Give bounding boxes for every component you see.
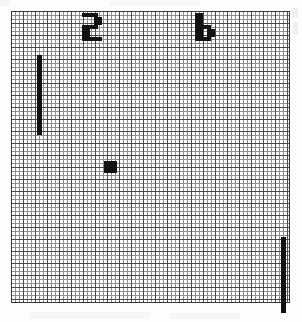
- score-left: [82, 13, 102, 41]
- scan-artifact: [292, 8, 298, 17]
- scan-artifact: [110, 1, 200, 6]
- left-paddle[interactable]: [37, 55, 42, 135]
- right-paddle[interactable]: [281, 237, 286, 313]
- scan-artifact: [30, 312, 150, 319]
- game-playfield[interactable]: [11, 11, 290, 303]
- scan-artifact: [0, 0, 10, 6]
- score-right: [195, 13, 215, 41]
- pong-screen: [0, 0, 302, 322]
- scan-artifact: [170, 313, 240, 319]
- ball: [104, 161, 117, 173]
- scan-artifact: [293, 22, 298, 34]
